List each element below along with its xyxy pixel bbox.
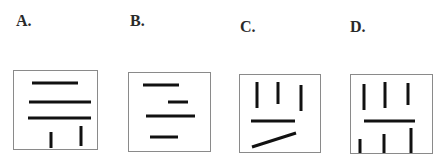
figure-line	[252, 133, 296, 147]
figure-line-strokes	[0, 0, 437, 161]
